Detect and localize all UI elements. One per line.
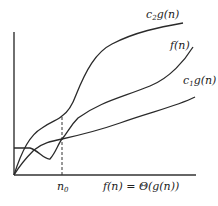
n0-label: n0 xyxy=(57,180,69,194)
upper-curve-label: c2g(n) xyxy=(146,8,179,22)
lower-curve-label: c1g(n) xyxy=(183,74,216,88)
lower-bound-curve xyxy=(14,97,195,175)
caption: f(n) = Θ(g(n)) xyxy=(102,180,179,193)
f-curve xyxy=(14,47,193,159)
upper-bound-curve xyxy=(14,23,183,175)
theta-diagram: c2g(n) f(n) c1g(n) n0 f(n) = Θ(g(n)) xyxy=(0,0,218,206)
f-curve-label: f(n) xyxy=(169,39,190,52)
